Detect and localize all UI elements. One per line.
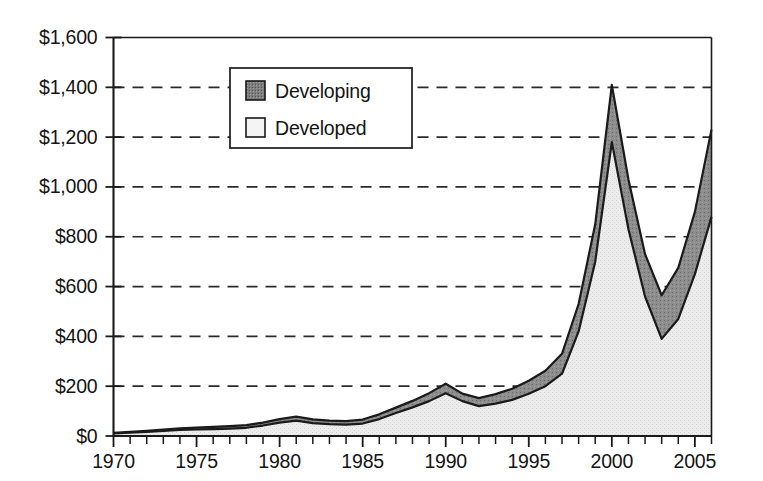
legend-swatch-developing — [246, 81, 265, 100]
x-axis-tick-label: 1980 — [258, 450, 301, 472]
x-axis-tick-label: 1970 — [92, 450, 135, 472]
x-axis-tick-label: 1975 — [175, 450, 218, 472]
y-axis-tick-label: $1,600 — [39, 26, 98, 48]
legend: DevelopingDeveloped — [230, 68, 412, 148]
x-axis-labels-group: 19701975198019851990199520002005 — [92, 450, 716, 472]
legend-label-developed: Developed — [275, 117, 366, 139]
y-axis-tick-label: $600 — [55, 275, 98, 297]
x-axis-tick-label: 1995 — [507, 450, 550, 472]
x-axis-tick-label: 1985 — [341, 450, 384, 472]
y-axis-tick-label: $1,400 — [39, 76, 98, 98]
y-axis-tick-label: $0 — [76, 425, 98, 447]
legend-swatch-developed — [246, 118, 265, 137]
stacked-area-chart: $1,600$1,400$1,200$1,000$800$600$400$200… — [0, 0, 763, 481]
x-axis-tick-label: 2000 — [591, 450, 634, 472]
y-axis-tick-label: $1,200 — [39, 126, 98, 148]
x-axis-tick-label: 2005 — [674, 450, 717, 472]
x-axis-tick-label: 1990 — [424, 450, 467, 472]
legend-label-developing: Developing — [275, 80, 371, 102]
y-axis-tick-label: $200 — [55, 375, 98, 397]
y-axis-labels-group: $1,600$1,400$1,200$1,000$800$600$400$200… — [39, 26, 98, 447]
chart-container: $1,600$1,400$1,200$1,000$800$600$400$200… — [0, 0, 763, 481]
y-axis-tick-label: $800 — [55, 225, 98, 247]
y-axis-tick-label: $1,000 — [39, 175, 98, 197]
y-axis-tick-label: $400 — [55, 325, 98, 347]
